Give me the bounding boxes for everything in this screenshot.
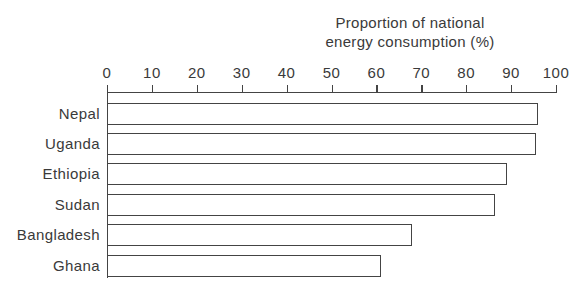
- chart-title-line-2: energy consumption (%): [230, 32, 584, 51]
- x-tick-label: 10: [143, 64, 161, 81]
- bar-uganda: [107, 133, 536, 155]
- bar-nepal: [107, 103, 538, 125]
- x-tick-label: 80: [457, 64, 475, 81]
- category-label: Ethiopia: [43, 165, 100, 182]
- category-label: Ghana: [53, 257, 100, 274]
- x-axis-line: [107, 92, 556, 93]
- chart-title-line-1: Proportion of national: [230, 13, 584, 32]
- category-label: Uganda: [45, 135, 100, 152]
- bar-ghana: [107, 255, 381, 277]
- x-tick-label: 70: [412, 64, 430, 81]
- x-tick-label: 100: [543, 64, 570, 81]
- x-tick-mark: [556, 85, 557, 93]
- category-label: Bangladesh: [17, 226, 100, 243]
- x-tick-label: 20: [188, 64, 206, 81]
- x-tick-label: 30: [233, 64, 251, 81]
- category-label: Sudan: [55, 196, 100, 213]
- x-tick-label: 50: [323, 64, 341, 81]
- bar-sudan: [107, 194, 495, 216]
- bar-bangladesh: [107, 224, 412, 246]
- x-tick-label: 0: [103, 64, 112, 81]
- category-label: Nepal: [59, 105, 100, 122]
- x-tick-label: 40: [278, 64, 296, 81]
- bar-ethiopia: [107, 163, 507, 185]
- x-tick-label: 60: [368, 64, 386, 81]
- x-tick-label: 90: [502, 64, 520, 81]
